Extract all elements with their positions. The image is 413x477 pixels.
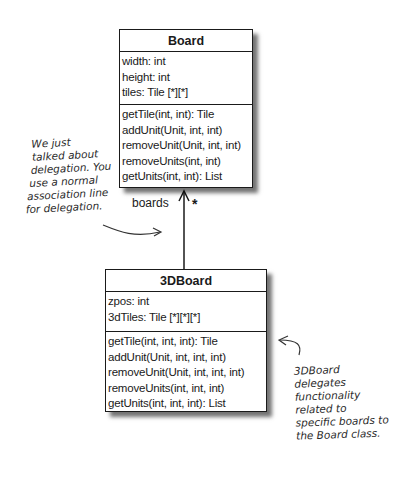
association-role-label: boards: [132, 196, 169, 210]
note-left: We just talked about delegation. You use…: [22, 134, 114, 216]
method: getTile(int, int): Tile: [122, 107, 252, 123]
class-board-name: Board: [120, 30, 252, 52]
method: addUnit(Unit, int, int): [122, 123, 252, 139]
class-board[interactable]: Board width: int height: int tiles: Tile…: [119, 29, 253, 188]
class-board-methods: getTile(int, int): Tile addUnit(Unit, in…: [120, 104, 252, 185]
class-3dboard-name: 3DBoard: [106, 270, 266, 292]
method: removeUnit(Unit, int, int, int): [108, 365, 266, 381]
attribute: width: int: [122, 54, 252, 70]
note-right: 3DBoard delegates functionality related …: [294, 361, 390, 442]
class-3dboard[interactable]: 3DBoard zpos: int 3dTiles: Tile [*][*][*…: [105, 269, 267, 412]
method: removeUnits(int, int, int): [108, 381, 266, 397]
class-3dboard-methods: getTile(int, int, int): Tile addUnit(Uni…: [106, 331, 266, 412]
attribute: 3dTiles: Tile [*][*][*]: [108, 310, 266, 326]
class-board-attributes: width: int height: int tiles: Tile [*][*…: [120, 52, 252, 104]
method: getUnits(int, int, int): List: [108, 396, 266, 412]
attribute: tiles: Tile [*][*]: [122, 85, 252, 101]
left-note-pointer: [103, 225, 160, 234]
method: getTile(int, int, int): Tile: [108, 334, 266, 350]
method: removeUnits(int, int): [122, 154, 252, 170]
association-multiplicity: *: [192, 196, 197, 212]
left-note-arrowhead-icon: [153, 228, 161, 236]
attribute: zpos: int: [108, 294, 266, 310]
method: removeUnit(Unit, int, int): [122, 138, 252, 154]
method: getUnits(int, int): List: [122, 169, 252, 185]
method: addUnit(Unit, int, int, int): [108, 350, 266, 366]
class-3dboard-attributes: zpos: int 3dTiles: Tile [*][*][*]: [106, 292, 266, 331]
attribute: height: int: [122, 70, 252, 86]
